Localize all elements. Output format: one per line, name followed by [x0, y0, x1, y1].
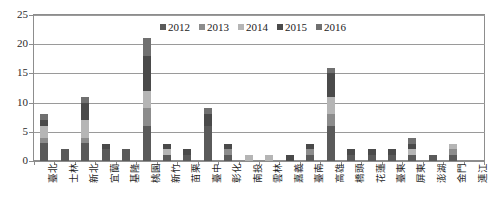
- bar-segment-2015: [81, 103, 89, 121]
- x-label-桃園: 桃園: [151, 163, 161, 213]
- legend-label-2014: 2014: [246, 21, 268, 33]
- legend-label-2012: 2012: [168, 21, 190, 33]
- x-label-臺北: 臺北: [48, 163, 58, 213]
- bar-segment-2012: [61, 149, 69, 161]
- bar-基隆: [122, 149, 130, 161]
- y-tick-label-10: 10: [4, 97, 28, 108]
- y-tick-10: [29, 103, 33, 104]
- bar-segment-2014: [327, 97, 335, 115]
- legend-item-2014: 2014: [238, 21, 268, 33]
- legend-swatch-icon-2012: [160, 24, 166, 30]
- bar-segment-2012: [122, 149, 130, 161]
- bar-segment-2015: [143, 56, 151, 91]
- x-label-嘉義: 嘉義: [294, 163, 304, 213]
- x-label-雲林: 雲林: [273, 163, 283, 213]
- bar-金門: [449, 144, 457, 161]
- bar-segment-2012: [408, 155, 416, 161]
- bar-segment-2014: [245, 155, 253, 161]
- bar-segment-2012: [163, 155, 171, 161]
- y-tick-15: [29, 73, 33, 74]
- legend-item-2015: 2015: [277, 21, 307, 33]
- bar-新北: [81, 97, 89, 161]
- x-axis-category-labels: 臺北士林新北宜蘭基隆桃園新竹苗栗臺中彰化南投雲林嘉義臺南高雄橋頭花蓮臺東屏東澎湖…: [34, 163, 484, 215]
- legend-swatch-icon-2015: [277, 24, 283, 30]
- bar-花蓮: [368, 149, 376, 161]
- bar-segment-2012: [429, 155, 437, 161]
- bar-segment-2012: [327, 126, 335, 161]
- x-label-新竹: 新竹: [171, 163, 181, 213]
- x-label-屏東: 屏東: [416, 163, 426, 213]
- bar-segment-2012: [347, 155, 355, 161]
- bar-segment-2014: [40, 126, 48, 138]
- y-tick-0: [29, 161, 33, 162]
- chart-legend: 20122013201420152016: [160, 21, 346, 33]
- legend-item-2013: 2013: [199, 21, 229, 33]
- x-label-花蓮: 花蓮: [376, 163, 386, 213]
- legend-swatch-icon-2014: [238, 24, 244, 30]
- bar-segment-2014: [81, 120, 89, 138]
- bar-segment-2013: [143, 108, 151, 126]
- x-label-臺南: 臺南: [314, 163, 324, 213]
- x-label-連江: 連江: [478, 163, 488, 213]
- legend-label-2015: 2015: [285, 21, 307, 33]
- bar-臺南: [306, 144, 314, 161]
- bar-臺東: [388, 149, 396, 161]
- x-label-宜蘭: 宜蘭: [110, 163, 120, 213]
- bars-layer: [34, 15, 484, 161]
- bar-橋頭: [347, 149, 355, 161]
- bar-澎湖: [429, 155, 437, 161]
- bar-嘉義: [286, 155, 294, 161]
- bar-segment-2012: [449, 155, 457, 161]
- bar-雲林: [265, 155, 273, 161]
- y-tick-label-15: 15: [4, 67, 28, 78]
- y-tick-label-5: 5: [4, 126, 28, 137]
- legend-label-2016: 2016: [324, 21, 346, 33]
- y-axis-tick-labels: 2520151050: [0, 0, 28, 216]
- x-label-高雄: 高雄: [335, 163, 345, 213]
- x-label-金門: 金門: [457, 163, 467, 213]
- bar-宜蘭: [102, 144, 110, 162]
- legend-item-2016: 2016: [316, 21, 346, 33]
- bar-苗栗: [183, 149, 191, 161]
- x-label-橋頭: 橋頭: [355, 163, 365, 213]
- legend-item-2012: 2012: [160, 21, 190, 33]
- bar-segment-2012: [224, 155, 232, 161]
- bar-segment-2015: [204, 114, 212, 126]
- bar-segment-2012: [81, 143, 89, 161]
- bar-segment-2015: [286, 155, 294, 161]
- bar-segment-2014: [265, 155, 273, 161]
- y-tick-label-0: 0: [4, 155, 28, 166]
- bar-segment-2012: [183, 155, 191, 161]
- legend-swatch-icon-2013: [199, 24, 205, 30]
- legend-label-2013: 2013: [207, 21, 229, 33]
- x-label-南投: 南投: [253, 163, 263, 213]
- bar-segment-2014: [143, 91, 151, 109]
- bar-segment-2012: [204, 126, 212, 161]
- y-tick-5: [29, 132, 33, 133]
- x-label-臺中: 臺中: [212, 163, 222, 213]
- bar-segment-2012: [102, 149, 110, 161]
- bar-士林: [61, 149, 69, 161]
- x-label-基隆: 基隆: [130, 163, 140, 213]
- y-tick-label-25: 25: [4, 9, 28, 20]
- bar-segment-2016: [143, 38, 151, 56]
- x-label-彰化: 彰化: [232, 163, 242, 213]
- bar-segment-2012: [306, 155, 314, 161]
- bar-屏東: [408, 138, 416, 161]
- legend-swatch-icon-2016: [316, 24, 322, 30]
- bar-高雄: [327, 68, 335, 161]
- x-label-苗栗: 苗栗: [191, 163, 201, 213]
- bar-segment-2012: [40, 143, 48, 161]
- bar-segment-2013: [327, 114, 335, 126]
- bar-segment-2015: [327, 73, 335, 96]
- bar-臺中: [204, 108, 212, 161]
- y-tick-20: [29, 44, 33, 45]
- x-label-新北: 新北: [89, 163, 99, 213]
- bar-新竹: [163, 144, 171, 161]
- bar-南投: [245, 155, 253, 161]
- bar-segment-2012: [143, 126, 151, 161]
- x-label-澎湖: 澎湖: [437, 163, 447, 213]
- stacked-bar-chart: 2520151050 臺北士林新北宜蘭基隆桃園新竹苗栗臺中彰化南投雲林嘉義臺南高…: [0, 0, 496, 216]
- bar-桃園: [143, 38, 151, 161]
- bar-segment-2012: [388, 155, 396, 161]
